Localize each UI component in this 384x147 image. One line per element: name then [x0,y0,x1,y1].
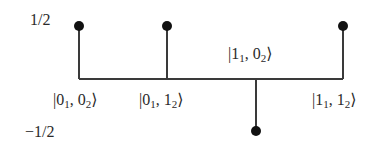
stem-diagram [0,0,384,147]
state-label-00: |01, 02⟩ [53,92,97,108]
ket-mid: , 1 [329,91,345,108]
ket-suffix: ⟩ [91,91,97,108]
stem-0-1 [162,21,172,79]
ket-mid: , 1 [156,91,172,108]
dot-icon [74,21,84,31]
state-label-10: |11, 02⟩ [228,46,272,62]
y-label-top: 1/2 [30,12,50,28]
ket-mid: , 0 [70,91,86,108]
ket-prefix: |1 [228,45,239,62]
ket-prefix: |1 [312,91,323,108]
stem-1-1 [338,21,348,79]
ket-suffix: ⟩ [266,45,272,62]
state-label-01: |01, 12⟩ [139,92,183,108]
dot-icon [338,21,348,31]
ket-prefix: |0 [139,91,150,108]
stem-0-0 [74,21,84,79]
dot-icon [251,126,261,136]
dot-icon [162,21,172,31]
ket-prefix: |0 [53,91,64,108]
state-label-11: |11, 12⟩ [312,92,356,108]
ket-suffix: ⟩ [177,91,183,108]
stem-1-0 [251,79,261,136]
ket-suffix: ⟩ [350,91,356,108]
ket-mid: , 0 [245,45,261,62]
y-label-bottom: −1/2 [25,124,54,140]
